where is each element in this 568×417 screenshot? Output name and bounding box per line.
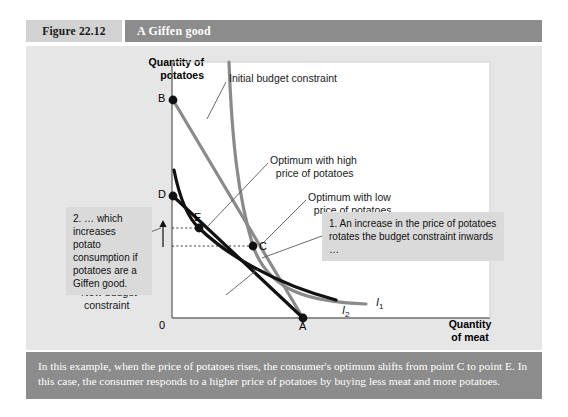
point-label-D: D (158, 188, 166, 200)
leader-new-budget (226, 269, 258, 295)
figure-number-box: Figure 22.12 (26, 20, 122, 42)
callout-left-text: 2. … which increases potato consumption … (73, 213, 137, 289)
origin-label: 0 (159, 319, 165, 331)
annotation-optimum-high: Optimum with high price of potatoes (270, 154, 357, 180)
increase-arrow-icon (159, 220, 166, 247)
callout-right: 1. An increase in the price of potatoes … (322, 212, 504, 261)
point-D-marker (169, 192, 178, 201)
figure-root: Figure 22.12 A Giffen good Quantity of p… (0, 0, 568, 417)
curve-label-i2: I2 (342, 304, 350, 319)
figure-number-label: Figure 22.12 (42, 25, 106, 37)
figure-header: Figure 22.12 A Giffen good (26, 20, 542, 42)
leader-optimum-low (262, 200, 306, 244)
point-B-marker (169, 96, 178, 105)
leader-initial-budget (207, 82, 226, 119)
curve-label-i2-sub: 2 (345, 310, 349, 319)
figure-title-band: A Giffen good (125, 20, 542, 42)
figure-caption-band: In this example, when the price of potat… (26, 352, 542, 399)
figure-body-panel: Quantity of potatoes Quantity of meat (26, 46, 542, 350)
curve-label-i1: I1 (376, 296, 384, 311)
point-E-marker (195, 224, 204, 233)
point-label-E: E (194, 211, 201, 223)
point-C-marker (249, 242, 258, 251)
callout-left: 2. … which increases potato consumption … (66, 207, 152, 295)
figure-caption-text: In this example, when the price of potat… (38, 359, 530, 388)
point-label-A: A (299, 320, 306, 332)
point-label-C: C (259, 240, 267, 252)
curve-label-i1-sub: 1 (379, 302, 383, 311)
annotation-initial-budget: Initial budget constraint (229, 72, 337, 85)
callout-right-text: 1. An increase in the price of potatoes … (329, 218, 496, 255)
point-label-B: B (158, 92, 165, 104)
figure-title-label: A Giffen good (125, 24, 211, 39)
leader-callout-right (262, 236, 322, 258)
